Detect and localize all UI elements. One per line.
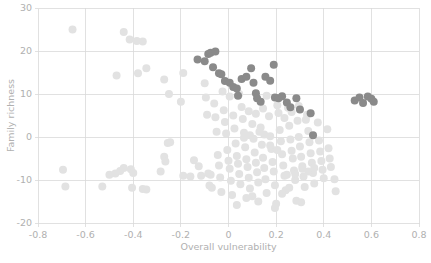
data-point-nonsignificant [214, 151, 222, 159]
data-point-nonsignificant [310, 179, 318, 187]
data-point-nonsignificant [263, 189, 271, 197]
data-point-nonsignificant [221, 118, 229, 126]
y-tick-label: -10 [16, 174, 32, 185]
tick-marks [35, 8, 420, 227]
data-point-nonsignificant [215, 161, 223, 169]
data-point-nonsignificant [226, 93, 234, 101]
data-point-nonsignificant [236, 180, 244, 188]
data-point-nonsignificant [317, 157, 325, 165]
data-point-nonsignificant [263, 92, 271, 100]
x-tick-label: -0.6 [76, 229, 95, 240]
data-point-nonsignificant [161, 158, 169, 166]
data-point-nonsignificant [216, 173, 224, 181]
data-point-nonsignificant [245, 107, 253, 115]
data-point-significant [211, 47, 219, 55]
x-tick-label: 0.2 [269, 229, 284, 240]
data-point-nonsignificant [277, 137, 285, 145]
data-point-nonsignificant [248, 120, 256, 128]
data-point-nonsignificant [326, 155, 334, 163]
x-tick-label: -0.2 [172, 229, 191, 240]
data-point-nonsignificant [222, 130, 230, 138]
data-point-nonsignificant [278, 190, 286, 198]
data-point-nonsignificant [252, 159, 260, 167]
data-point-nonsignificant [286, 136, 294, 144]
data-point-significant [247, 64, 255, 72]
data-point-nonsignificant [217, 188, 225, 196]
x-tick-label: 0.8 [411, 229, 426, 240]
y-tick-label: 10 [20, 88, 32, 99]
data-point-significant [194, 56, 202, 64]
data-point-nonsignificant [232, 139, 240, 147]
data-point-nonsignificant [160, 75, 168, 83]
data-point-nonsignificant [316, 148, 324, 156]
data-point-nonsignificant [208, 184, 216, 192]
data-point-nonsignificant [126, 35, 134, 43]
data-point-nonsignificant [201, 79, 209, 87]
scatter-plot-figure: -0.8-0.6-0.4-0.200.20.40.60.8 -20-100102… [0, 0, 431, 263]
data-point-nonsignificant [134, 69, 142, 77]
data-point-nonsignificant [220, 106, 228, 114]
x-tick-labels: -0.8-0.6-0.4-0.200.20.40.60.8 [29, 229, 427, 240]
data-point-nonsignificant [240, 134, 248, 142]
data-point-nonsignificant [253, 168, 261, 176]
x-tick-label: 0.6 [364, 229, 379, 240]
data-point-nonsignificant [273, 146, 281, 154]
plot-canvas: -0.8-0.6-0.4-0.200.20.40.60.8 -20-100102… [0, 0, 431, 263]
data-point-nonsignificant [314, 118, 322, 126]
data-point-nonsignificant [238, 103, 246, 111]
data-point-nonsignificant [59, 166, 67, 174]
data-points [59, 26, 378, 212]
data-point-nonsignificant [325, 144, 333, 152]
data-point-nonsignificant [297, 153, 305, 161]
data-point-nonsignificant [283, 171, 291, 179]
data-point-nonsignificant [332, 187, 340, 195]
y-tick-label: -20 [16, 217, 32, 228]
data-point-nonsignificant [203, 111, 211, 119]
data-point-nonsignificant [113, 72, 121, 80]
data-point-nonsignificant [226, 165, 234, 173]
data-point-nonsignificant [246, 185, 254, 193]
data-point-nonsignificant [129, 169, 137, 177]
data-point-nonsignificant [239, 115, 247, 123]
data-point-nonsignificant [295, 133, 303, 141]
data-point-nonsignificant [285, 184, 293, 192]
data-point-significant [309, 131, 317, 139]
data-point-nonsignificant [120, 28, 128, 36]
data-point-significant [278, 92, 286, 100]
data-point-nonsignificant [223, 146, 231, 154]
data-point-nonsignificant [69, 26, 77, 34]
data-point-significant [270, 61, 278, 69]
data-point-nonsignificant [259, 105, 267, 113]
data-point-nonsignificant [270, 167, 278, 175]
data-point-nonsignificant [186, 173, 194, 181]
data-point-nonsignificant [165, 90, 173, 98]
data-point-nonsignificant [302, 116, 310, 124]
data-point-nonsignificant [296, 142, 304, 150]
data-point-nonsignificant [227, 177, 235, 185]
data-point-nonsignificant [234, 160, 242, 168]
data-point-nonsignificant [177, 98, 185, 106]
data-point-nonsignificant [271, 181, 279, 189]
y-tick-label: 30 [20, 2, 32, 13]
data-point-significant [233, 84, 241, 92]
y-tick-label: 0 [26, 131, 32, 142]
data-point-nonsignificant [235, 170, 243, 178]
x-tick-label: -0.4 [124, 229, 143, 240]
data-point-nonsignificant [233, 152, 241, 160]
data-point-nonsignificant [258, 141, 266, 149]
data-point-significant [201, 57, 209, 65]
data-point-nonsignificant [98, 182, 106, 190]
x-axis-title: Overall vulnerability [180, 241, 277, 252]
data-point-significant [250, 79, 258, 87]
data-point-nonsignificant [245, 174, 253, 182]
data-point-nonsignificant [279, 161, 287, 169]
data-point-nonsignificant [255, 128, 263, 136]
data-point-nonsignificant [251, 148, 259, 156]
data-point-nonsignificant [289, 155, 297, 163]
data-point-nonsignificant [320, 174, 328, 182]
data-point-nonsignificant [310, 164, 318, 172]
data-point-nonsignificant [301, 183, 309, 191]
data-point-nonsignificant [142, 64, 150, 72]
data-point-nonsignificant [252, 110, 260, 118]
data-point-significant [307, 109, 315, 117]
